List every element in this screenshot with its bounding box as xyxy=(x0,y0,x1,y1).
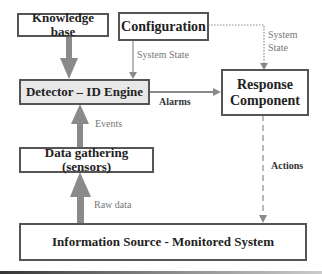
configuration-label: Configuration xyxy=(121,19,206,34)
information-source-node: Information Source - Monitored System xyxy=(19,223,307,261)
system-state-label-left: System State xyxy=(137,49,189,60)
response-label-line1: Response xyxy=(237,77,293,92)
information-source-label: Information Source - Monitored System xyxy=(52,235,274,249)
detector-id-engine-node: Detector – ID Engine xyxy=(19,79,150,105)
configuration-node: Configuration xyxy=(118,12,209,41)
alarms-label: Alarms xyxy=(159,96,191,107)
config-to-response-dotted-arrow xyxy=(208,25,268,70)
actions-label: Actions xyxy=(271,160,303,171)
state-label-right: State xyxy=(268,42,288,53)
events-arrow xyxy=(71,104,89,147)
knowledge-base-node: Knowledge base xyxy=(17,13,109,37)
knowledge-base-label: Knowledge base xyxy=(19,11,107,40)
system-label-right: System xyxy=(268,29,297,40)
raw-data-arrow xyxy=(70,172,91,223)
actions-dashed-arrow xyxy=(259,115,267,223)
alarms-arrow xyxy=(149,88,221,96)
response-label-line2: Component xyxy=(230,93,300,108)
raw-data-label: Raw data xyxy=(94,199,132,210)
knowledge-to-detector-arrow xyxy=(60,36,78,79)
config-to-detector-arrow xyxy=(129,40,137,79)
detector-label: Detector – ID Engine xyxy=(26,85,143,99)
response-component-node: Response Component xyxy=(221,69,309,116)
data-gathering-label: Data gathering (sensors) xyxy=(21,146,152,175)
events-label: Events xyxy=(95,118,122,129)
data-gathering-node: Data gathering (sensors) xyxy=(19,147,154,173)
